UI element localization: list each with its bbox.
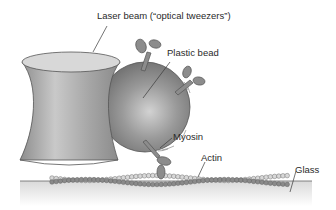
optical-tweezers-diagram: Laser beam (“optical tweezers”) Plastic … [0,0,336,210]
glass-label: Glass [295,165,319,175]
diagram-graphic [0,0,336,210]
myosin-label: Myosin [173,132,203,142]
laser-beam-label: Laser beam (“optical tweezers”) [97,11,231,21]
actin-label: Actin [201,153,222,163]
plastic-bead-label: Plastic bead [167,48,219,58]
laser-beam [20,52,120,165]
